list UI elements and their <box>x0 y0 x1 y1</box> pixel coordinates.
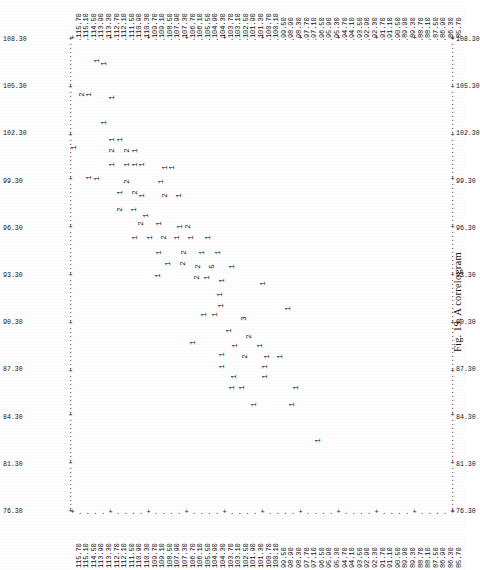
frame-dot-bottom: . <box>283 509 287 515</box>
frame-tick-top: + <box>261 35 265 41</box>
row-tick-label-right: 81.30 <box>456 461 476 468</box>
frame-dot-bottom: . <box>124 509 128 515</box>
frame-dot-top: . <box>93 35 97 41</box>
data-point-glyph: 1 <box>109 95 116 99</box>
data-point-glyph: 1 <box>205 236 212 240</box>
data-point-glyph: 1 <box>101 120 108 124</box>
row-tick-label-right: 99.30 <box>456 178 476 185</box>
frame-dot-bottom: . <box>359 509 363 515</box>
row-tick-label-left: 99.30 <box>3 178 23 185</box>
frame-dot-bottom: . <box>139 509 143 515</box>
frame-dot-top: . <box>162 35 166 41</box>
data-point-glyph: 5 <box>209 264 216 268</box>
data-point-glyph: 2 <box>242 354 249 358</box>
data-point-glyph: 1 <box>204 275 211 279</box>
data-point-glyph: 1 <box>158 179 165 183</box>
frame-dot-top: . <box>397 35 401 41</box>
column-tick-label-bottom: 86.30 <box>447 547 455 568</box>
frame-tick-top: + <box>413 35 417 41</box>
frame-dot-bottom: . <box>200 509 204 515</box>
data-point-glyph: 1 <box>219 364 226 368</box>
data-point-glyph: 1 <box>277 354 284 358</box>
column-tick-label-bottom: 94.10 <box>348 547 356 568</box>
data-point-glyph: 1 <box>219 353 226 357</box>
column-tick-label-bottom: 92.30 <box>371 547 379 568</box>
row-tick-label-right: 108.30 <box>456 36 480 43</box>
frame-dot-bottom: . <box>162 509 166 515</box>
column-tick-label-bottom: 103.10 <box>234 543 242 568</box>
data-point-glyph: 1 <box>116 191 123 195</box>
frame-dot-bottom: . <box>405 509 409 515</box>
column-tick-label-bottom: 110.30 <box>143 543 151 568</box>
frame-dot-top: . <box>169 35 173 41</box>
frame-dot-top: . <box>382 35 386 41</box>
row-tick-label-left: 105.30 <box>3 83 27 90</box>
data-point-glyph: 1 <box>130 208 137 212</box>
frame-tick-left: + <box>69 508 73 514</box>
data-point-glyph: 1 <box>190 340 197 344</box>
data-point-glyph: 1 <box>239 385 246 389</box>
row-tick-label-right: 105.30 <box>456 83 480 90</box>
data-point-glyph: 1 <box>315 439 322 443</box>
row-tick-label-left: 84.30 <box>3 414 23 421</box>
row-tick-label-left: 93.30 <box>3 272 23 279</box>
frame-dot-top: . <box>314 35 318 41</box>
frame-dot-top: . <box>359 35 363 41</box>
frame-tick-bottom: + <box>299 509 303 515</box>
data-point-glyph: 1 <box>109 137 116 141</box>
frame-dot-bottom: . <box>291 509 295 515</box>
data-point-glyph: 1 <box>94 177 101 181</box>
data-point-glyph: 1 <box>215 250 222 254</box>
frame-tick-bottom: + <box>337 509 341 515</box>
data-point-glyph: 2 <box>161 236 168 240</box>
frame-dot-bottom: . <box>253 509 257 515</box>
frame-dot-top: . <box>390 35 394 41</box>
figure-caption: Fig. 19. A correlogram <box>452 252 463 352</box>
data-point-glyph: 1 <box>187 236 194 240</box>
frame-tick-bottom: + <box>185 509 189 515</box>
frame-tick-top: + <box>109 35 113 41</box>
frame-dot-bottom: . <box>192 509 196 515</box>
column-tick-label-bottom: 109.10 <box>158 543 166 568</box>
column-tick-label-bottom: 106.10 <box>196 543 204 568</box>
data-point-glyph: 2 <box>195 264 202 268</box>
data-point-glyph: 1 <box>86 92 93 96</box>
frame-tick-bottom: + <box>261 509 265 515</box>
column-tick-label-bottom: 113.30 <box>105 543 113 568</box>
frame-dot-bottom: . <box>245 509 249 515</box>
frame-dot-top: . <box>78 35 82 41</box>
frame-dot-bottom: . <box>306 509 310 515</box>
column-tick-label-bottom: 85.70 <box>455 547 463 568</box>
frame-dot-top: . <box>291 35 295 41</box>
data-point-glyph: 1 <box>139 162 146 166</box>
frame-tick-top: + <box>223 35 227 41</box>
frame-dot-top: . <box>86 35 90 41</box>
frame-dot-top: . <box>428 35 432 41</box>
frame-dot-bottom: . <box>435 509 439 515</box>
frame-dot-bottom: . <box>314 509 318 515</box>
frame-dot-top: . <box>215 35 219 41</box>
column-tick-label-group-bottom: 115.70115.10114.50113.90113.30112.70112.… <box>0 512 466 570</box>
data-point-glyph: 1 <box>259 281 266 285</box>
data-point-glyph: 1 <box>176 193 183 197</box>
frame-dot-top: . <box>230 35 234 41</box>
data-point-glyph: 1 <box>262 364 269 368</box>
data-point-glyph: 1 <box>263 354 270 358</box>
frame-dot-bottom: . <box>390 509 394 515</box>
frame-dot-bottom: . <box>420 509 424 515</box>
frame-dot-bottom: . <box>169 509 173 515</box>
data-point-glyph: 1 <box>199 250 206 254</box>
frame-dot-bottom: . <box>154 509 158 515</box>
row-tick-label-right: 84.30 <box>456 414 476 421</box>
column-tick-label-bottom: 115.10 <box>82 543 90 568</box>
data-point-glyph: 1 <box>289 402 296 406</box>
frame-dot-bottom: . <box>93 509 97 515</box>
data-point-glyph: 1 <box>101 61 108 65</box>
frame-dot-top: . <box>443 35 447 41</box>
row-tick-label-left: 76.30 <box>3 508 23 515</box>
row-tick-label-right: 96.30 <box>456 225 476 232</box>
data-point-glyph: 1 <box>218 303 225 307</box>
data-point-glyph: 1 <box>229 264 236 268</box>
frame-tick-bottom: + <box>413 509 417 515</box>
